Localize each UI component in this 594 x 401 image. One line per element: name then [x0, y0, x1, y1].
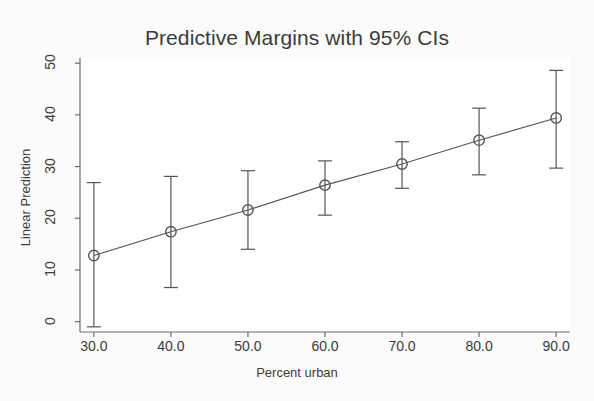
x-tick-label: 40.0	[141, 338, 201, 354]
x-tick-label: 90.0	[526, 338, 586, 354]
x-tick-label: 80.0	[449, 338, 509, 354]
y-tick-label: 0	[42, 305, 58, 337]
x-tick-label: 70.0	[372, 338, 432, 354]
x-tick-label: 50.0	[218, 338, 278, 354]
x-tick-label: 30.0	[64, 338, 124, 354]
y-tick-label: 50	[42, 46, 58, 78]
y-tick-label: 30	[42, 150, 58, 182]
x-tick-label: 60.0	[295, 338, 355, 354]
y-tick-label: 20	[42, 201, 58, 233]
y-tick-label: 40	[42, 98, 58, 130]
chart-figure: Predictive Margins with 95% CIs Percent …	[0, 0, 594, 401]
y-tick-label: 10	[42, 253, 58, 285]
